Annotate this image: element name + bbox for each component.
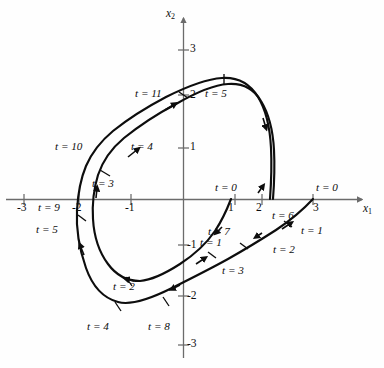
t-label-11: t = 11 xyxy=(135,88,162,99)
y-tick-label-2: 2 xyxy=(190,89,196,101)
x-tick-label-2: 2 xyxy=(256,202,262,214)
flow-arrow-inner-e xyxy=(196,258,205,264)
flow-arrow-inner-g xyxy=(258,186,263,193)
y-tick-label-neg1: -1 xyxy=(187,239,197,251)
t-label-3-outer: t = 3 xyxy=(222,265,244,276)
y-tick-label-neg2: -2 xyxy=(187,290,197,302)
t-label-4-outer: t = 4 xyxy=(87,321,109,332)
t-label-3-inner: t = 3 xyxy=(92,178,114,189)
axis-lines xyxy=(6,18,362,358)
flow-arrow-outer-e xyxy=(263,118,266,128)
t-label-0-inner: t = 0 xyxy=(215,182,237,193)
y-axis-label: x2 xyxy=(166,8,175,21)
y-axis-label-sub: 2 xyxy=(171,12,175,21)
y-tick-label-3: 3 xyxy=(190,43,196,55)
x-axis-label-sub: 1 xyxy=(368,207,372,216)
t-label-10: t = 10 xyxy=(55,141,82,152)
x-axis-label: x1 xyxy=(363,203,372,216)
x-tick-label-neg2: -2 xyxy=(72,202,82,214)
t-label-0-outer: t = 0 xyxy=(316,182,338,193)
t-label-7: t = 7 xyxy=(208,226,230,237)
t-label-1-outer: t = 1 xyxy=(301,225,323,236)
t-label-6: t = 6 xyxy=(272,210,294,221)
time-stamp-ticks xyxy=(78,74,292,311)
t-label-9: t = 9 xyxy=(38,202,60,213)
t-label-8: t = 8 xyxy=(148,321,170,332)
y-tick-label-neg3: -3 xyxy=(187,338,197,350)
x-tick-label-3: 3 xyxy=(313,202,319,214)
t-label-5-inner: t = 5 xyxy=(205,88,227,99)
t-label-4-inner: t = 4 xyxy=(131,141,153,152)
t-label-2-inner: t = 2 xyxy=(113,281,135,292)
flow-arrow-outer-a xyxy=(256,233,262,237)
x-tick-label-1: 1 xyxy=(228,202,234,214)
flow-arrow-inner-c xyxy=(96,188,97,198)
phase-plane-figure: -3 -2 -1 1 2 3 3 2 1 -1 -2 -3 x1 x2 t = … xyxy=(0,0,384,368)
t-label-1-inner: t = 1 xyxy=(200,237,222,248)
x-tick-label-neg3: -3 xyxy=(17,202,27,214)
flow-arrow-inner-d xyxy=(165,104,175,110)
t-label-5-outer: t = 5 xyxy=(36,224,58,235)
y-tick-label-1: 1 xyxy=(190,141,196,153)
t-label-2-outer: t = 2 xyxy=(273,244,295,255)
x-tick-label-neg1: -1 xyxy=(125,202,135,214)
